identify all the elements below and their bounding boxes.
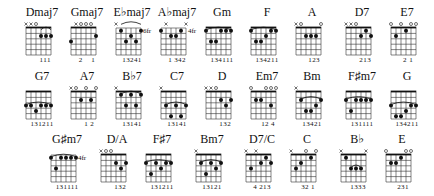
chord-diagram: B♭ 1333 xyxy=(335,133,379,195)
chord-name: G7 xyxy=(20,70,64,83)
fretboard-grid xyxy=(245,20,289,56)
chord-name: Dmaj7 xyxy=(20,6,64,19)
finger-numbers: 134211 xyxy=(245,56,289,64)
fretboard-grid xyxy=(340,84,384,120)
chord-diagram: C713141 xyxy=(155,70,199,132)
fretboard-grid xyxy=(385,84,429,120)
chord-name: A♭maj7 xyxy=(155,6,199,19)
chord-name: G♯m7 xyxy=(45,133,89,146)
chord-name: Bm xyxy=(290,70,334,83)
finger-numbers: 2 1 xyxy=(385,56,429,64)
fretboard-grid xyxy=(200,20,244,56)
chord-diagram: G134211 xyxy=(385,70,429,132)
finger-numbers: 131211 xyxy=(140,183,184,191)
chord-diagram: Dmaj7 111 xyxy=(20,6,64,68)
fretboard-grid xyxy=(290,84,334,120)
chord-name: A7 xyxy=(65,70,109,83)
chord-diagram: E 231 xyxy=(380,133,424,195)
chord-diagram: Gm134111 xyxy=(200,6,244,68)
finger-numbers: 13241 xyxy=(110,56,154,64)
chord-name: B♭ xyxy=(335,133,379,146)
fretboard-grid xyxy=(385,20,429,56)
svg-text:4fr: 4fr xyxy=(78,154,87,162)
chord-name: E7 xyxy=(385,6,429,19)
chord-diagram: A♭maj74fr1 342 xyxy=(155,6,199,68)
chord-diagram: E♭maj76fr13241 xyxy=(110,6,154,68)
finger-numbers: 131211 xyxy=(20,120,64,128)
chord-name: D7 xyxy=(340,6,384,19)
chord-name: E xyxy=(380,133,424,146)
finger-numbers: 231 xyxy=(380,183,424,191)
fretboard-grid xyxy=(190,147,234,183)
chord-name: Gm xyxy=(200,6,244,19)
finger-numbers: 13121 xyxy=(190,183,234,191)
chord-diagram: A 123 xyxy=(290,6,334,68)
fretboard-grid xyxy=(335,147,379,183)
chord-diagram: Em7 12 4 xyxy=(245,70,289,132)
svg-text:4fr: 4fr xyxy=(188,27,197,35)
chord-name: D/A xyxy=(95,133,139,146)
chord-name: D xyxy=(200,70,244,83)
chord-name: Em7 xyxy=(245,70,289,83)
chord-name: F xyxy=(245,6,289,19)
chord-name: E♭maj7 xyxy=(110,6,154,19)
chord-name: C7 xyxy=(155,70,199,83)
fretboard-grid: 6fr xyxy=(110,20,154,56)
chord-name: B♭7 xyxy=(110,70,154,83)
fretboard-grid xyxy=(290,20,334,56)
fretboard-grid: 4fr xyxy=(45,147,89,183)
chord-name: A xyxy=(290,6,334,19)
chord-diagram: G♯m74fr131111 xyxy=(45,133,89,195)
fretboard-grid xyxy=(380,147,424,183)
chord-diagram: F134211 xyxy=(245,6,289,68)
chord-diagram: E7 2 1 xyxy=(385,6,429,68)
chord-diagram: A7 1 2 xyxy=(65,70,109,132)
finger-numbers: 13141 xyxy=(110,120,154,128)
svg-text:6fr: 6fr xyxy=(143,27,152,35)
chord-diagram: C 32 1 xyxy=(285,133,329,195)
finger-numbers: 2 1 xyxy=(65,56,109,64)
finger-numbers: 131111 xyxy=(45,183,89,191)
fretboard-grid xyxy=(65,20,109,56)
finger-numbers: 123 xyxy=(290,56,334,64)
finger-numbers: 134211 xyxy=(385,120,429,128)
chord-diagram: D7 213 xyxy=(340,6,384,68)
finger-numbers: 12 4 xyxy=(245,120,289,128)
fretboard-grid xyxy=(65,84,109,120)
finger-numbers: 1 2 xyxy=(65,120,109,128)
chord-diagram: G7131211 xyxy=(20,70,64,132)
fretboard-grid: 4fr xyxy=(155,20,199,56)
fretboard-grid xyxy=(155,84,199,120)
chord-diagram: F♯m7131111 xyxy=(340,70,384,132)
finger-numbers: 4 213 xyxy=(240,183,284,191)
finger-numbers: 213 xyxy=(340,56,384,64)
finger-numbers: 131111 xyxy=(340,120,384,128)
chord-diagram: B♭713141 xyxy=(110,70,154,132)
chord-name: Bm7 xyxy=(190,133,234,146)
fretboard-grid xyxy=(110,84,154,120)
fretboard-grid xyxy=(245,84,289,120)
fretboard-grid xyxy=(285,147,329,183)
finger-numbers: 132 xyxy=(200,120,244,128)
finger-numbers: 13141 xyxy=(155,120,199,128)
finger-numbers: 32 1 xyxy=(285,183,329,191)
chord-diagram: D 132 xyxy=(200,70,244,132)
fretboard-grid xyxy=(20,20,64,56)
chord-name: C xyxy=(285,133,329,146)
fretboard-grid xyxy=(340,20,384,56)
fretboard-grid xyxy=(200,84,244,120)
chord-name: G xyxy=(385,70,429,83)
chord-name: D7/C xyxy=(240,133,284,146)
chord-diagram: D7/C4 213 xyxy=(240,133,284,195)
chord-name: F♯m7 xyxy=(340,70,384,83)
chord-diagram: Bm13421 xyxy=(290,70,334,132)
fretboard-grid xyxy=(95,147,139,183)
fretboard-grid xyxy=(240,147,284,183)
chord-diagram: F♯7131211 xyxy=(140,133,184,195)
chord-diagram: Bm713121 xyxy=(190,133,234,195)
finger-numbers: 13421 xyxy=(290,120,334,128)
finger-numbers: 111 xyxy=(20,56,64,64)
chord-name: Gmaj7 xyxy=(65,6,109,19)
chord-diagram: D/A 132 xyxy=(95,133,139,195)
chord-name: F♯7 xyxy=(140,133,184,146)
